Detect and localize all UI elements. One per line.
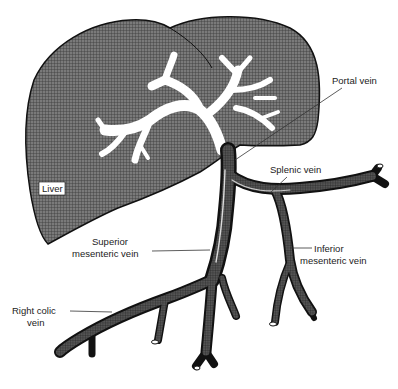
svg-text:vein: vein <box>27 317 44 328</box>
svg-text:mesenteric vein: mesenteric vein <box>72 248 139 259</box>
vessel-cut-ends <box>152 164 384 370</box>
svg-text:Liver: Liver <box>42 183 63 194</box>
liver-label: Liver <box>39 182 65 195</box>
svg-text:Inferior: Inferior <box>314 243 344 254</box>
svg-text:Right colic: Right colic <box>12 305 56 316</box>
svg-text:Splenic vein: Splenic vein <box>270 164 321 175</box>
svg-text:mesenteric vein: mesenteric vein <box>300 255 367 266</box>
inferior-mesenteric-vein-label: Inferior mesenteric vein <box>290 243 367 266</box>
svg-text:Portal vein: Portal vein <box>332 75 377 86</box>
svg-text:Superior: Superior <box>92 236 128 247</box>
portal-system-diagram: Liver Portal vein Splenic vein Superior … <box>0 0 398 389</box>
liver <box>26 17 320 244</box>
superior-mesenteric-vein-label: Superior mesenteric vein <box>72 236 210 259</box>
